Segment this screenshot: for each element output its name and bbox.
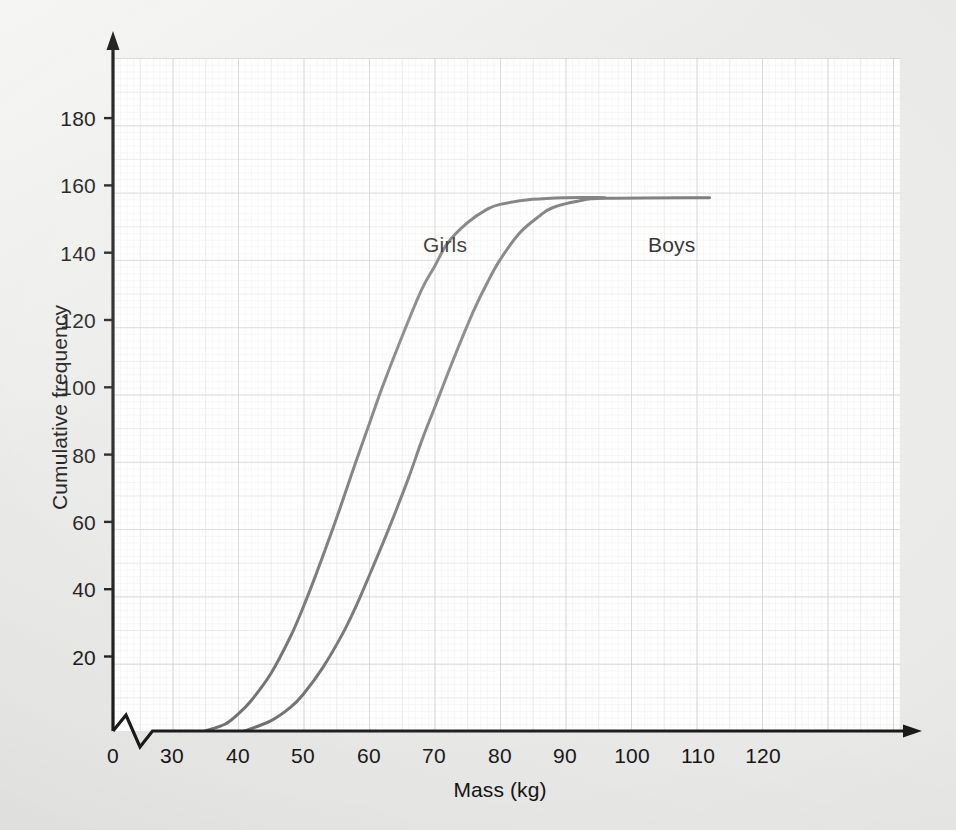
x-tick-label-100: 100: [601, 744, 663, 768]
y-axis-title: Cumulative frequency: [48, 305, 72, 510]
x-tick-label-50: 50: [278, 744, 328, 768]
series-label-girls: Girls: [423, 233, 467, 257]
x-tick-label-70: 70: [409, 744, 459, 768]
x-tick-label-90: 90: [540, 744, 590, 768]
x-tick-label-0: 0: [88, 744, 138, 768]
x-tick-label-30: 30: [147, 744, 197, 768]
x-tick-label-110: 110: [667, 744, 729, 768]
y-tick-label-140: 140: [38, 242, 96, 266]
chart-svg: [0, 0, 956, 830]
y-tick-label-180: 180: [38, 107, 96, 131]
y-tick-label-60: 60: [38, 511, 96, 535]
plot-grid: [113, 58, 900, 731]
cumulative-frequency-chart: [0, 0, 956, 830]
x-axis-arrow: [903, 725, 922, 738]
x-tick-label-80: 80: [475, 744, 525, 768]
x-tick-label-60: 60: [344, 744, 394, 768]
x-tick-label-120: 120: [732, 744, 794, 768]
y-axis-arrow: [107, 31, 120, 50]
x-tick-label-40: 40: [213, 744, 263, 768]
x-axis-title: Mass (kg): [420, 778, 580, 802]
y-tick-label-40: 40: [38, 578, 96, 602]
series-label-boys: Boys: [648, 233, 696, 257]
y-tick-label-20: 20: [38, 646, 96, 670]
y-tick-label-160: 160: [38, 174, 96, 198]
